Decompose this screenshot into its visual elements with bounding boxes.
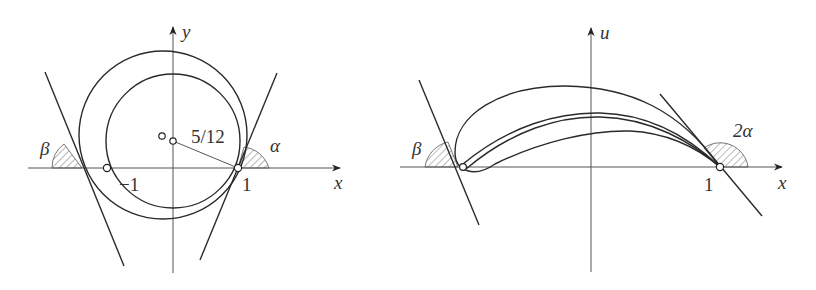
x-axis-label: x xyxy=(333,172,343,193)
point-one xyxy=(234,164,241,171)
label-one-right: 1 xyxy=(704,174,714,195)
center-point-outer xyxy=(159,133,165,139)
outer-profile xyxy=(455,86,720,172)
center-point-inner xyxy=(170,138,176,144)
diagram-canvas: y x −1 1 5/12 α β u x 1 2α β xyxy=(0,0,816,290)
x-axis-label-right: x xyxy=(777,172,787,193)
label-two-alpha: 2α xyxy=(733,120,754,141)
angle-beta-hatch xyxy=(52,144,82,168)
label-beta: β xyxy=(39,138,50,159)
tangent-line-left-right xyxy=(419,80,479,225)
label-alpha: α xyxy=(270,135,281,156)
point-leading xyxy=(460,164,467,171)
label-minus-one: −1 xyxy=(119,174,139,195)
point-one-right xyxy=(716,163,723,170)
right-figure: u x 1 2α β xyxy=(400,22,787,272)
tangent-line-trailing xyxy=(660,94,762,216)
y-axis-label: y xyxy=(180,21,191,42)
label-beta-right: β xyxy=(411,138,422,159)
label-one: 1 xyxy=(242,174,252,195)
left-figure: y x −1 1 5/12 α β xyxy=(28,21,343,273)
point-minus-one xyxy=(103,164,110,171)
label-radius: 5/12 xyxy=(191,126,225,147)
u-axis-label: u xyxy=(600,22,610,43)
